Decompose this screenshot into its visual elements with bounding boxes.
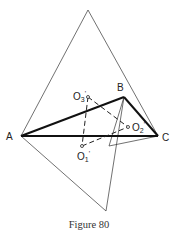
figure-caption: Figure 80	[0, 219, 178, 230]
point-o2	[127, 126, 130, 129]
label-o2: O2'	[132, 121, 145, 134]
outer-triangle-top	[21, 10, 158, 136]
geometry-diagram: A B C O3' O2' O1'	[0, 0, 178, 240]
label-a: A	[6, 131, 13, 142]
label-b: B	[117, 82, 124, 93]
label-c: C	[162, 132, 169, 143]
label-o3: O3'	[73, 90, 86, 103]
label-o1: O1'	[77, 150, 90, 163]
point-o3	[87, 96, 90, 99]
outer-triangle-bottom	[21, 97, 124, 211]
point-o1	[81, 145, 84, 148]
